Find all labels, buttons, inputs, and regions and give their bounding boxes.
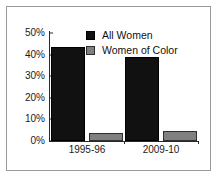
bar-1995-96-women-of-color bbox=[89, 133, 123, 141]
legend-label: All Women bbox=[102, 30, 153, 41]
legend-item-women-of-color: Women of Color bbox=[86, 43, 178, 58]
y-axis-tick-label: 20% bbox=[25, 93, 50, 103]
legend-label: Women of Color bbox=[102, 45, 178, 56]
y-axis-tick-label: 30% bbox=[25, 71, 50, 81]
x-axis-tick-mark bbox=[198, 141, 199, 144]
legend-item-all-women: All Women bbox=[86, 28, 178, 43]
x-axis-tick-label: 2009-10 bbox=[121, 145, 201, 155]
x-axis-tick-mark bbox=[124, 141, 125, 144]
y-axis-tick-label: 10% bbox=[25, 114, 50, 124]
y-axis-tick-label: 40% bbox=[25, 50, 50, 60]
bar-1995-96-all-women bbox=[51, 47, 85, 141]
legend-swatch-icon bbox=[86, 31, 95, 40]
y-axis-tick-label: 50% bbox=[25, 28, 50, 38]
y-axis-tick-mark bbox=[50, 33, 53, 34]
bar-2009-10-all-women bbox=[125, 57, 159, 141]
x-axis-tick-label: 1995-96 bbox=[47, 145, 127, 155]
bar-chart-figure: 0%10%20%30%40%50% All WomenWomen of Colo… bbox=[0, 0, 219, 180]
bar-2009-10-women-of-color bbox=[163, 131, 197, 141]
legend-swatch-icon bbox=[86, 46, 95, 55]
chart-legend: All WomenWomen of Color bbox=[86, 28, 178, 58]
